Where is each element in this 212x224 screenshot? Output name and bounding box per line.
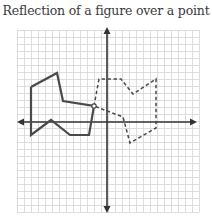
reflected-figure — [94, 79, 156, 143]
coordinate-plane — [0, 0, 212, 224]
original-figure — [31, 73, 94, 135]
axes — [17, 27, 197, 213]
y-axis-down-arrow-icon — [104, 206, 111, 213]
x-axis-right-arrow-icon — [190, 119, 197, 126]
x-axis-left-arrow-icon — [17, 119, 24, 126]
reflection-center-point — [92, 104, 96, 108]
